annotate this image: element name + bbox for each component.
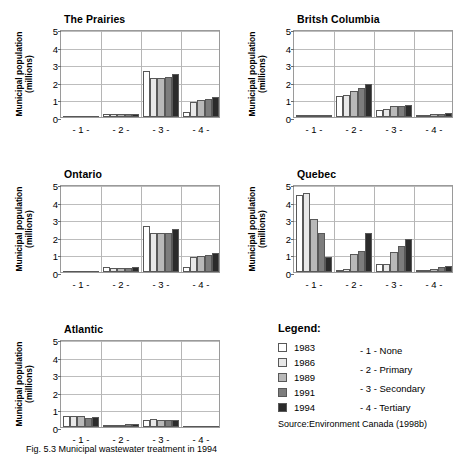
bar-1983-3	[376, 110, 383, 117]
bar-1991-2	[125, 114, 132, 117]
y-axis-label: Municipal population(millions)	[247, 185, 267, 273]
y-axis-tick-mark	[291, 204, 294, 205]
legend-item-label: 1983	[294, 342, 315, 353]
bar-1986-1	[303, 193, 310, 272]
source-note: Source:Environment Canada (1998b)	[278, 419, 427, 429]
bar-1983-2	[336, 96, 343, 117]
x-axis-tick-label: - 2 -	[113, 124, 130, 135]
x-axis-separator	[181, 31, 182, 117]
legend-item: 1994	[278, 402, 321, 413]
bar-1983-2	[103, 114, 110, 117]
x-axis-separator	[334, 31, 335, 117]
y-axis-tick-mark	[58, 49, 61, 50]
bar-1986-4	[190, 426, 197, 427]
x-axis-separator	[101, 31, 102, 117]
bar-1983-2	[103, 425, 110, 427]
chart-title: The Prairies	[64, 13, 125, 25]
gridline	[61, 359, 219, 360]
bar-1991-4	[205, 426, 212, 427]
gridline	[61, 239, 219, 240]
bar-1991-3	[398, 106, 405, 117]
x-axis-separator	[181, 341, 182, 427]
bar-1994-3	[172, 229, 179, 272]
bar-1994-4	[212, 253, 219, 272]
bar-1986-3	[383, 264, 390, 272]
bar-1989-4	[430, 269, 437, 272]
bar-1989-4	[197, 100, 204, 117]
y-axis-tick-mark	[58, 186, 61, 187]
x-axis-tick-label: - 4 -	[426, 124, 443, 135]
gridline	[61, 341, 219, 342]
bar-1994-4	[212, 97, 219, 117]
y-axis-tick-mark	[58, 394, 61, 395]
legend-item: 1986	[278, 357, 321, 368]
bar-1994-2	[132, 267, 139, 272]
y-axis-tick-mark	[58, 411, 61, 412]
x-axis-separator	[141, 31, 142, 117]
bar-1986-3	[383, 109, 390, 117]
y-axis-tick-mark	[291, 84, 294, 85]
bar-1986-2	[343, 269, 350, 272]
gridline	[61, 84, 219, 85]
x-axis-tick-label: - 1 -	[73, 279, 90, 290]
chart-title: Quebec	[297, 168, 336, 180]
gridline	[61, 204, 219, 205]
bar-1989-2	[117, 425, 124, 427]
bar-1994-1	[92, 271, 99, 272]
bar-1994-3	[172, 74, 179, 117]
bar-1994-2	[132, 114, 139, 117]
bar-1991-3	[165, 233, 172, 272]
bar-1991-4	[205, 99, 212, 117]
y-axis-label-text: Municipal population	[247, 32, 257, 117]
gridline	[61, 49, 219, 50]
bar-1994-2	[365, 233, 372, 272]
bar-1989-1	[310, 115, 317, 117]
legend-category-item: - 2 - Primary	[360, 364, 425, 375]
bar-1983-1	[296, 115, 303, 117]
bar-1989-3	[157, 420, 164, 427]
y-axis-label-text: Municipal population	[14, 342, 24, 427]
bar-1983-1	[296, 195, 303, 272]
bar-1983-4	[183, 112, 190, 117]
bar-1986-4	[190, 257, 197, 272]
bar-1986-4	[190, 102, 197, 117]
x-axis-separator	[414, 31, 415, 117]
legend-swatch-1983	[278, 343, 287, 352]
bar-1994-3	[405, 239, 412, 272]
bar-1991-1	[85, 271, 92, 272]
y-axis-tick-mark	[58, 341, 61, 342]
legend-item: 1991	[278, 387, 321, 398]
y-axis-tick-mark	[291, 31, 294, 32]
gridline	[61, 411, 219, 412]
x-axis-tick-label: - 4 -	[426, 279, 443, 290]
gridline	[294, 66, 452, 67]
bar-1991-2	[125, 424, 132, 427]
gridline	[294, 31, 452, 32]
x-axis-separator	[374, 31, 375, 117]
bar-1986-4	[423, 115, 430, 117]
gridline	[61, 31, 219, 32]
y-axis-tick-mark	[58, 256, 61, 257]
bar-1983-2	[336, 270, 343, 272]
chart-title: Atlantic	[64, 323, 103, 335]
bar-1989-3	[157, 78, 164, 117]
x-axis-tick-label: - 1 -	[73, 124, 90, 135]
legend-swatch-1991	[278, 388, 287, 397]
bar-1983-2	[103, 267, 110, 272]
bar-1986-2	[110, 268, 117, 272]
x-axis-separator	[334, 186, 335, 272]
legend-swatch-1986	[278, 358, 287, 367]
y-axis-label: Municipal population(millions)	[14, 340, 34, 428]
x-axis-tick-label: - 4 -	[193, 279, 210, 290]
bar-1989-4	[197, 256, 204, 272]
y-axis-label-units: (millions)	[257, 210, 267, 248]
legend-item-label: 1986	[294, 357, 315, 368]
y-axis-label-units: (millions)	[24, 55, 34, 93]
y-axis-tick-mark	[291, 239, 294, 240]
gridline	[61, 376, 219, 377]
bar-1994-2	[132, 424, 139, 427]
bar-1991-4	[205, 255, 212, 272]
bar-1986-1	[70, 116, 77, 117]
bar-1986-3	[150, 419, 157, 427]
y-axis-label-units: (millions)	[257, 55, 267, 93]
